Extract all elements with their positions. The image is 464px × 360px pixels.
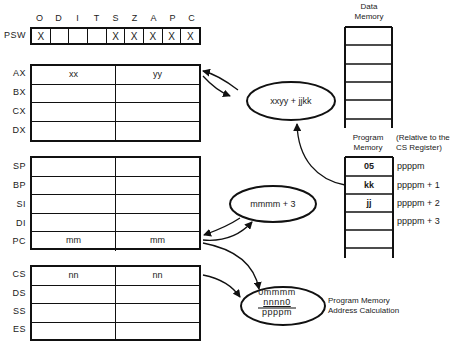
psw-label: PSW: [4, 30, 26, 40]
flag-p: X: [163, 29, 182, 43]
ax-high: xx: [32, 66, 116, 84]
reg-label-ds: DS: [0, 288, 26, 298]
program-memory-title-line1: Program: [338, 133, 398, 143]
progmem-address-3: ppppm + 3: [397, 216, 440, 226]
register-ss: [32, 304, 199, 323]
sp-low: [116, 158, 199, 176]
register-pc: mm mm: [32, 232, 199, 251]
register-ds: [32, 286, 199, 305]
address-calc-text: 0mmmm nnnn0 ppppm: [250, 287, 304, 317]
data-memory-title: Data Memory: [340, 2, 398, 22]
progmem-address-0: ppppm: [397, 161, 425, 171]
flag-t: [88, 29, 107, 43]
ax-low: yy: [116, 66, 199, 84]
flag-d: [51, 29, 70, 43]
register-es: [32, 323, 199, 342]
progmem-address-2: ppppm + 2: [397, 198, 440, 208]
flag-label-t: T: [87, 13, 106, 23]
dx-low: [116, 122, 199, 141]
flag-label-d: D: [49, 13, 68, 23]
ss-high: [32, 304, 116, 322]
flag-a: X: [144, 29, 163, 43]
register-cs: nn nn: [32, 267, 199, 286]
register-sp: [32, 158, 199, 177]
address-calc-line1: 0mmmm: [250, 287, 304, 297]
bp-high: [32, 177, 116, 195]
register-cx: [32, 103, 199, 122]
reg-label-bx: BX: [0, 87, 26, 97]
register-bx: [32, 85, 199, 104]
reg-label-bp: BP: [0, 180, 26, 190]
address-calc-result: ppppm: [250, 307, 304, 317]
sp-high: [32, 158, 116, 176]
reg-label-cx: CX: [0, 106, 26, 116]
ss-low: [116, 304, 199, 322]
progmem-cell-2: jj: [345, 198, 393, 208]
es-high: [32, 323, 116, 342]
si-high: [32, 195, 116, 213]
pc-high: mm: [32, 232, 116, 251]
add-operation-text: xxyy + jjkk: [247, 96, 335, 106]
progmem-address-1: ppppm + 1: [397, 180, 440, 190]
es-low: [116, 323, 199, 342]
general-register-block: xx yy: [30, 64, 201, 142]
arrow-pc-to-address-calc: [203, 243, 259, 289]
reg-label-es: ES: [0, 324, 26, 334]
data-memory-title-line1: Data: [340, 2, 398, 12]
bx-low: [116, 85, 199, 103]
address-calc-caption-line1: Program Memory: [328, 296, 399, 306]
flag-label-s: S: [106, 13, 125, 23]
flag-label-i: I: [68, 13, 87, 23]
dx-high: [32, 122, 116, 141]
progmem-cell-0: 05: [345, 161, 393, 171]
program-memory-note: (Relative to the CS Register): [396, 133, 450, 153]
di-high: [32, 214, 116, 232]
data-memory-title-line2: Memory: [340, 12, 398, 22]
arrow-add-to-ax: [203, 71, 238, 90]
flag-label-z: Z: [125, 13, 144, 23]
pc-low: mm: [116, 232, 199, 251]
ds-high: [32, 286, 116, 304]
flag-o: X: [32, 29, 51, 43]
reg-label-ss: SS: [0, 306, 26, 316]
address-calc-caption-line2: Address Calculation: [328, 306, 399, 316]
ds-low: [116, 286, 199, 304]
flag-i: [69, 29, 88, 43]
reg-label-sp: SP: [0, 161, 26, 171]
pointer-register-block: mm mm: [30, 156, 201, 250]
flag-label-p: P: [163, 13, 182, 23]
register-si: [32, 195, 199, 214]
flag-z: X: [125, 29, 144, 43]
cx-high: [32, 103, 116, 121]
address-calc-caption: Program Memory Address Calculation: [328, 296, 399, 316]
reg-label-cs: CS: [0, 269, 26, 279]
program-memory-note-line1: (Relative to the: [396, 133, 450, 143]
flag-c: X: [181, 29, 199, 43]
address-calc-line2: nnnn0: [250, 297, 304, 307]
flag-s: X: [107, 29, 126, 43]
progmem-cell-1: kk: [345, 180, 393, 190]
program-memory-title-line2: Memory: [338, 143, 398, 153]
reg-label-si: SI: [0, 199, 26, 209]
di-low: [116, 214, 199, 232]
arrow-increment-to-pc: [204, 218, 240, 235]
register-ax: xx yy: [32, 66, 199, 85]
si-low: [116, 195, 199, 213]
register-dx: [32, 122, 199, 141]
reg-label-pc: PC: [0, 236, 26, 246]
bx-high: [32, 85, 116, 103]
pc-increment-text: mmmm + 3: [230, 199, 316, 209]
reg-label-di: DI: [0, 218, 26, 228]
arrow-ax-to-add: [203, 76, 230, 96]
reg-label-dx: DX: [0, 125, 26, 135]
register-di: [32, 214, 199, 233]
flag-label-o: O: [30, 13, 49, 23]
cs-high: nn: [32, 267, 116, 285]
flag-label-a: A: [144, 13, 163, 23]
register-bp: [32, 177, 199, 196]
data-memory-stack: [345, 27, 392, 128]
arrow-cs-to-address-calc: [203, 275, 240, 297]
cs-low: nn: [116, 267, 199, 285]
segment-register-block: nn nn: [30, 265, 201, 341]
bp-low: [116, 177, 199, 195]
